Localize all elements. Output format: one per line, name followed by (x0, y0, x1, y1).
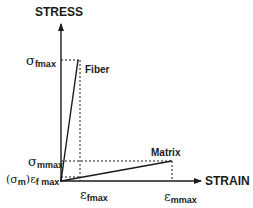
strain-axis-label: STRAIN (205, 175, 250, 187)
fiber-label: Fiber (85, 65, 109, 75)
eps-fmax-tick: εfmax (80, 186, 108, 203)
matrix-curve (61, 161, 172, 181)
fiber-curve (61, 60, 78, 181)
matrix-label: Matrix (151, 148, 180, 158)
stress-axis-label: STRESS (35, 6, 83, 18)
sigma-fmax-tick: σfmax (26, 52, 56, 69)
sigma-mmax-tick: σmmax (28, 153, 63, 170)
sigma-m-at-efmax-tick: (σm)εf max (6, 170, 59, 187)
eps-mmax-tick: εmmax (164, 188, 197, 205)
